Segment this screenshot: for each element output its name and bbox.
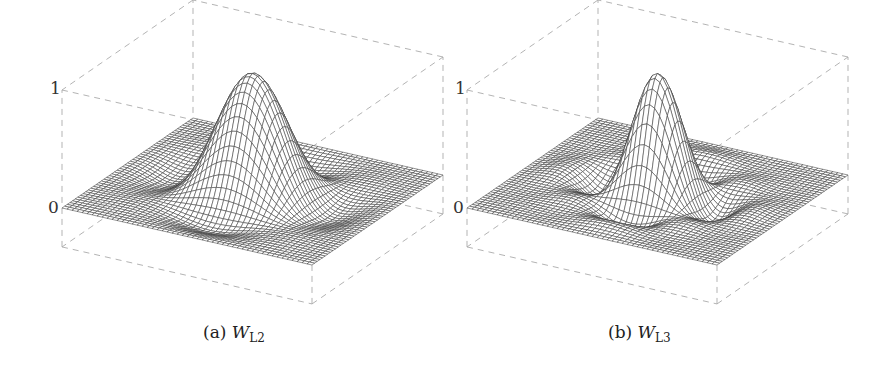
caption-subscript: L3 [655,331,671,345]
z-tick-1: 1 [50,80,61,97]
caption-label: (b) [608,322,632,342]
surface-plot-a [0,0,445,368]
wireframe-mesh [62,73,443,265]
z-tick-0: 0 [453,199,464,216]
caption-a: (a) WL2 [203,322,265,345]
z-tick-0: 0 [48,199,59,216]
caption-b: (b) WL3 [608,322,671,345]
z-tick-1: 1 [455,80,466,97]
caption-label: (a) [203,322,226,342]
caption-subscript: L2 [249,331,265,345]
caption-symbol: W [232,322,249,342]
panel-a: 1 0 (a) WL2 [0,0,445,368]
surface-plot-b [445,0,890,368]
panel-b: 1 0 (b) WL3 [445,0,890,368]
caption-symbol: W [638,322,655,342]
wireframe-mesh [467,74,848,266]
